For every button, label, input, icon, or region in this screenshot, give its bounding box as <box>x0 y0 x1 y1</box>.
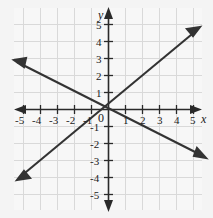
coordinate-plane-figure: -5 -4 -3 -2 -1 1 2 3 4 5 5 4 3 2 1 -1 -2… <box>0 0 213 218</box>
y-tick-label-neg5: -5 <box>90 190 99 201</box>
x-tick-label-neg5: -5 <box>15 115 24 126</box>
y-tick-label-neg3: -3 <box>90 156 99 167</box>
y-tick-label-1: 1 <box>96 88 102 99</box>
y-axis-label: y <box>98 9 103 21</box>
x-tick-label-neg4: -4 <box>32 115 41 126</box>
y-tick-label-neg4: -4 <box>90 173 99 184</box>
x-axis-label: x <box>201 113 206 125</box>
x-tick-label-4: 4 <box>174 115 180 126</box>
x-tick-label-1: 1 <box>123 115 129 126</box>
x-tick-label-2: 2 <box>140 115 146 126</box>
x-tick-label-neg2: -2 <box>66 115 75 126</box>
graph-canvas <box>0 0 213 218</box>
x-tick-label-neg3: -3 <box>49 115 58 126</box>
y-tick-label-2: 2 <box>96 71 102 82</box>
y-tick-label-neg2: -2 <box>90 139 99 150</box>
y-tick-label-3: 3 <box>96 54 102 65</box>
origin-label: 0 <box>98 112 104 124</box>
x-tick-label-3: 3 <box>157 115 163 126</box>
y-tick-label-4: 4 <box>96 37 102 48</box>
x-tick-label-5: 5 <box>190 115 196 126</box>
